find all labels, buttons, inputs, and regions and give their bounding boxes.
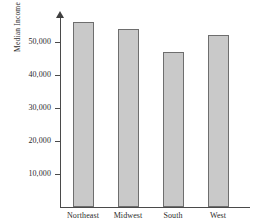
y-tick: 30,000 bbox=[0, 108, 60, 109]
bar bbox=[163, 52, 184, 207]
y-tick-label: 30,000 bbox=[7, 104, 51, 112]
bar bbox=[73, 22, 94, 207]
bar bbox=[118, 29, 139, 207]
y-axis-arrow-icon bbox=[56, 11, 64, 18]
bar bbox=[208, 35, 229, 207]
y-tick: 20,000 bbox=[0, 141, 60, 142]
x-axis-category-label: Northeast bbox=[61, 211, 106, 220]
y-tick: 40,000 bbox=[0, 75, 60, 76]
y-tick-mark bbox=[55, 108, 60, 109]
y-tick-mark bbox=[55, 141, 60, 142]
bar-chart-plot-area: 10,00020,00030,00040,00050,000 Northeast… bbox=[0, 0, 259, 224]
y-axis-line bbox=[60, 17, 61, 207]
x-axis-category-label: South bbox=[151, 211, 196, 220]
y-tick-label: 10,000 bbox=[7, 170, 51, 178]
y-tick-mark bbox=[55, 174, 60, 175]
x-axis-line bbox=[60, 207, 250, 208]
y-tick-mark bbox=[55, 42, 60, 43]
x-axis-category-label: West bbox=[196, 211, 241, 220]
y-tick-label: 40,000 bbox=[7, 71, 51, 79]
x-axis-category-label: Midwest bbox=[106, 211, 151, 220]
y-tick: 50,000 bbox=[0, 42, 60, 43]
y-tick-label: 50,000 bbox=[7, 38, 51, 46]
figure-container: ) Median Income 10,00020,00030,00040,000… bbox=[0, 0, 259, 224]
y-tick-label: 20,000 bbox=[7, 137, 51, 145]
y-tick-mark bbox=[55, 75, 60, 76]
y-tick: 10,000 bbox=[0, 174, 60, 175]
